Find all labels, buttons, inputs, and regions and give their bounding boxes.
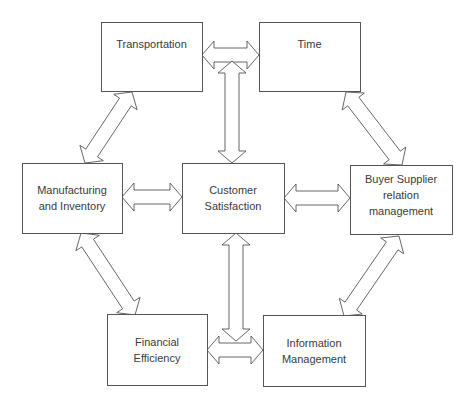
node-box xyxy=(183,164,285,234)
node-label: Efficiency xyxy=(134,352,181,364)
node-box xyxy=(264,316,366,387)
double-arrow-time-buyer xyxy=(342,92,406,165)
supply-chain-diagram: TransportationTimeManufacturingand Inven… xyxy=(0,0,472,407)
node-information: InformationManagement xyxy=(264,316,366,387)
double-arrow-customer-financial-information xyxy=(222,233,250,341)
double-arrow-time-customer xyxy=(218,61,246,163)
node-label: Information xyxy=(286,337,341,349)
node-label: Time xyxy=(297,38,321,50)
node-customer: CustomerSatisfaction xyxy=(183,164,285,234)
node-label: Financial xyxy=(135,336,179,348)
node-label: Transportation xyxy=(116,38,187,50)
node-label: Customer xyxy=(209,184,257,196)
node-label: Management xyxy=(282,353,346,365)
node-label: and Inventory xyxy=(39,200,106,212)
double-arrow-transportation-manufacturing xyxy=(80,92,137,163)
node-manufacturing: Manufacturingand Inventory xyxy=(23,164,123,234)
double-arrow-buyer-information xyxy=(339,236,403,316)
double-arrow-manufacturing-customer xyxy=(122,183,182,211)
node-box xyxy=(23,164,123,234)
node-label: Satisfaction xyxy=(205,200,262,212)
node-label: relation xyxy=(383,189,419,201)
double-arrow-manufacturing-financial xyxy=(76,233,140,315)
node-box xyxy=(108,315,208,386)
node-box xyxy=(102,23,203,92)
node-label: Buyer Supplier xyxy=(365,173,437,185)
node-financial: FinancialEfficiency xyxy=(108,315,208,386)
double-arrow-customer-buyer xyxy=(284,184,350,212)
node-buyer: Buyer Supplierrelationmanagement xyxy=(351,166,453,235)
node-label: Manufacturing xyxy=(37,184,107,196)
node-box xyxy=(260,23,361,92)
node-time: Time xyxy=(260,23,361,92)
node-transportation: Transportation xyxy=(102,23,203,92)
node-label: management xyxy=(369,205,433,217)
